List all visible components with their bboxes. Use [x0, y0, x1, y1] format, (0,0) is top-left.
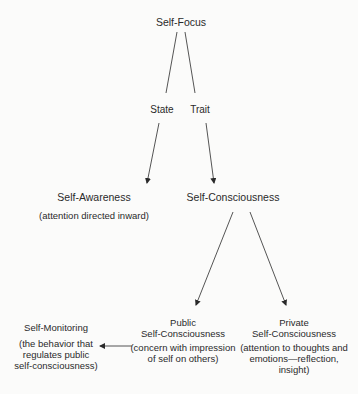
node-self-awareness: Self-Awareness [57, 192, 130, 203]
edge-selffocus-trait [185, 32, 195, 93]
edge-selffocus-state [166, 32, 177, 93]
node-self-focus: Self-Focus [156, 17, 206, 28]
public-label-line2: Self-Consciousness [141, 329, 225, 339]
self-monitoring-desc-line2: regulates public [23, 350, 90, 360]
public-desc-line2: of self on others) [148, 354, 219, 364]
private-desc-line2: emotions—reflection, [249, 354, 338, 364]
node-self-consciousness: Self-Consciousness [187, 192, 280, 203]
self-awareness-description: (attention directed inward) [39, 211, 149, 221]
arrow-selfconsciousness-private [250, 212, 286, 305]
private-label-line1: Private [279, 318, 309, 328]
private-desc-line1: (attention to thoughts and [240, 343, 348, 353]
node-state: State [150, 105, 173, 115]
self-monitoring-desc-line1: (the behavior that [19, 339, 93, 349]
public-label-line1: Public [170, 318, 196, 328]
arrow-state-selfawareness [147, 123, 159, 183]
node-self-monitoring: Self-Monitoring [24, 323, 88, 333]
arrow-trait-selfconsciousness [206, 123, 214, 183]
arrow-selfconsciousness-public [196, 212, 233, 305]
private-label-line2: Self-Consciousness [252, 329, 336, 339]
node-trait: Trait [190, 105, 210, 115]
self-monitoring-desc-line3: self-consciousness) [14, 361, 97, 371]
public-desc-line1: (concern with impression [130, 343, 235, 353]
private-desc-line3: insight) [279, 365, 310, 375]
